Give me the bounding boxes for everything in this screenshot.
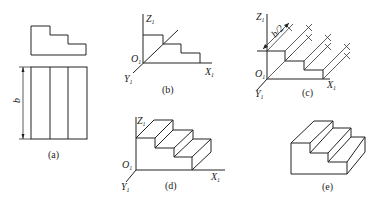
x-label: X1 [326, 79, 336, 91]
step-profile [143, 35, 200, 63]
panel-b: Z1 O1 X1 Y1 (b) [124, 13, 214, 96]
panel-d: Z1 O1 X1 Y1 (d) [121, 115, 225, 193]
top-view-rect [31, 67, 87, 139]
z-label: Z1 [137, 115, 146, 127]
oblique-drawing-diagram: b (a) Z1 O1 X1 Y1 (b) [0, 0, 379, 207]
y-axis [133, 30, 178, 73]
y-axis [126, 170, 136, 182]
panel-a: b (a) [11, 26, 87, 161]
y-label: Y1 [121, 181, 130, 193]
origin-label: O1 [255, 68, 265, 80]
stairs-front-face [136, 138, 192, 170]
caption-e: (e) [322, 181, 333, 193]
stairs-oblique-faces [291, 121, 365, 174]
z-label: Z1 [146, 13, 155, 25]
z-label: Z1 [256, 11, 265, 23]
caption-b: (b) [162, 84, 174, 96]
dimension-label-b-half: b/2 [269, 23, 286, 40]
origin-label: O1 [131, 53, 141, 65]
arrow-icon [22, 67, 25, 72]
x-label: X1 [210, 171, 220, 183]
caption-c: (c) [302, 87, 313, 99]
stairs-top-faces [136, 120, 211, 170]
dimension-label-b: b [11, 98, 22, 103]
y-label: Y1 [255, 88, 264, 100]
caption-a: (a) [48, 149, 59, 161]
y-label: Y1 [124, 73, 133, 85]
front-view-profile [31, 26, 86, 55]
panel-e: (e) [291, 121, 365, 193]
origin-label: O1 [122, 159, 132, 171]
panel-c: b/2 Z1 O1 X1 Y1 (c) [255, 11, 350, 100]
caption-d: (d) [165, 180, 177, 192]
arrow-icon [22, 134, 25, 139]
tick-marks [286, 25, 350, 59]
x-label: X1 [204, 66, 214, 78]
stairs-outline [291, 143, 347, 174]
